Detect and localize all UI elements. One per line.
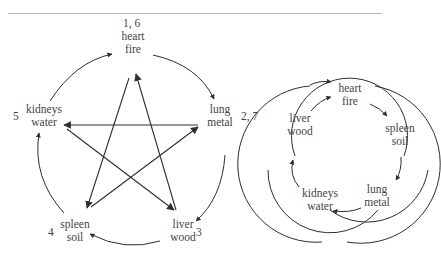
arrow-lung-to-liver [196, 155, 225, 221]
organ-label: heart [113, 30, 153, 43]
order-heart: 1, 6 [123, 17, 140, 29]
element-label: soil [380, 135, 420, 148]
circle-right [347, 86, 440, 243]
organ-label: lung [357, 183, 397, 196]
node-lung-metal: lung metal [200, 103, 240, 129]
arrow-spleen-to-lung [91, 127, 198, 207]
element-label: metal [357, 196, 397, 209]
arrow-spleen-to-kidneys [38, 133, 64, 213]
order-kidneys: 5 [13, 110, 19, 122]
right-node-kidneys-water: kidneys water [298, 187, 342, 213]
organ-label: kidneys [22, 103, 66, 116]
right-node-lung-metal: lung metal [357, 183, 397, 209]
arrow-heart-outer [310, 81, 331, 85]
node-kidneys-water: kidneys water [22, 103, 66, 129]
right-node-spleen-soil: spleen soil [380, 122, 420, 148]
element-label: water [298, 200, 342, 213]
node-spleen-soil: spleen soil [55, 218, 95, 244]
element-label: water [22, 116, 66, 129]
right-node-liver-wood: liver wood [280, 112, 320, 138]
arrow-spleen-to-lung [396, 157, 401, 180]
star-arrows [64, 74, 198, 210]
arrow-heart-to-spleen [370, 104, 387, 116]
element-label: fire [113, 43, 153, 56]
organ-label: heart [330, 82, 370, 95]
arrow-liver-to-heart [136, 74, 176, 210]
organ-label: spleen [380, 122, 420, 135]
element-label: soil [55, 231, 95, 244]
right-node-heart-fire: heart fire [330, 82, 370, 108]
organ-label: spleen [55, 218, 95, 231]
order-liver: 3 [196, 226, 202, 238]
arrow-kidneys-to-heart [50, 54, 112, 101]
arrow-kidneys-to-liver [67, 129, 174, 210]
arrow-heart-to-spleen [87, 78, 129, 208]
element-label: wood [280, 125, 320, 138]
arrow-liver-to-spleen [90, 234, 160, 245]
arrow-heart-to-lung [153, 55, 214, 99]
organ-label: kidneys [298, 187, 342, 200]
outer-cycle-arrows [38, 54, 225, 245]
element-label: metal [200, 116, 240, 129]
order-spleen: 4 [48, 226, 54, 238]
organ-label: liver [280, 112, 320, 125]
arrow-kidneys-to-liver [292, 160, 299, 187]
element-label: fire [330, 95, 370, 108]
organ-label: lung [200, 103, 240, 116]
arrow-liver-to-heart [311, 97, 331, 111]
order-lung: 2, 7 [241, 110, 258, 122]
node-heart-fire: heart fire [113, 30, 153, 56]
